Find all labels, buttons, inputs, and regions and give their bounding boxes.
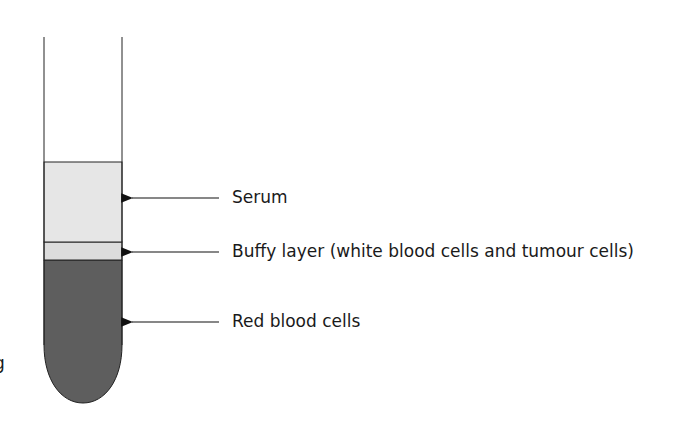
serum-label: Serum (232, 187, 288, 207)
red-blood-cells-layer (44, 260, 122, 403)
serum-layer (44, 162, 122, 242)
buffy-layer (44, 242, 122, 260)
tube-illustration (0, 0, 685, 422)
stray-mark: g (0, 353, 5, 373)
diagram-canvas: Serum Buffy layer (white blood cells and… (0, 0, 685, 422)
red-blood-cells-label: Red blood cells (232, 311, 360, 331)
buffy-layer-label: Buffy layer (white blood cells and tumou… (232, 241, 634, 261)
